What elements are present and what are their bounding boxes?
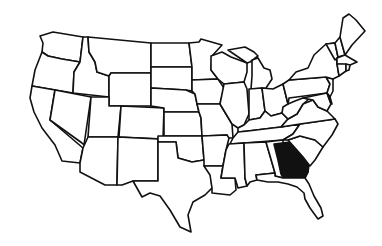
- us-map: [0, 0, 382, 246]
- state-rhode-island: [346, 64, 350, 71]
- state-north-dakota: [151, 43, 192, 67]
- state-arizona: [80, 137, 118, 185]
- state-new-mexico: [117, 137, 158, 185]
- state-wyoming: [109, 73, 151, 106]
- state-connecticut: [337, 64, 346, 76]
- state-iowa: [192, 79, 224, 104]
- state-montana: [88, 37, 151, 76]
- state-colorado: [119, 106, 164, 139]
- state-maine: [340, 14, 365, 55]
- state-south-dakota: [151, 67, 192, 91]
- state-florida: [256, 173, 323, 219]
- state-kansas: [164, 112, 202, 136]
